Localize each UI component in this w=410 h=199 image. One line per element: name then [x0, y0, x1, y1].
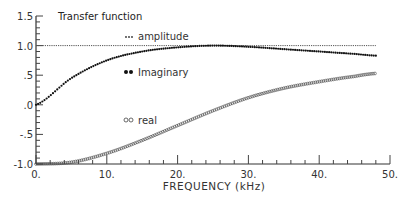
data-point — [271, 47, 273, 49]
data-point — [188, 45, 190, 47]
data-point — [103, 60, 105, 62]
data-point — [77, 73, 79, 75]
data-point — [309, 50, 311, 52]
series-real — [35, 72, 377, 165]
data-point — [56, 88, 58, 90]
data-point — [341, 52, 343, 54]
y-tick-label: 1.0 — [17, 41, 33, 52]
data-point — [358, 53, 360, 55]
data-point — [305, 50, 307, 52]
data-point — [156, 48, 158, 50]
data-point — [245, 46, 247, 48]
data-point — [52, 92, 54, 94]
data-point — [213, 44, 215, 46]
y-tick-label: -1.0 — [13, 159, 33, 170]
data-point — [347, 52, 349, 54]
x-axis-label: FREQUENCY (kHz) — [163, 180, 266, 192]
data-point — [135, 52, 137, 54]
data-point — [364, 54, 366, 56]
data-point — [90, 66, 92, 68]
data-point — [275, 48, 277, 50]
data-point — [241, 45, 243, 47]
data-point — [286, 48, 288, 50]
data-point — [226, 45, 228, 47]
data-point — [198, 45, 200, 47]
data-point — [243, 45, 245, 47]
data-point — [133, 52, 135, 54]
data-point — [273, 47, 275, 49]
data-point — [152, 49, 154, 51]
data-point — [351, 53, 353, 55]
data-point — [228, 45, 230, 47]
data-point — [164, 47, 166, 49]
data-point — [222, 45, 224, 47]
data-point — [48, 96, 50, 98]
data-point — [137, 51, 139, 53]
data-point — [254, 46, 256, 48]
data-point — [43, 99, 45, 101]
data-point — [41, 100, 43, 102]
data-point — [145, 50, 147, 52]
x-tick-label: 10. — [99, 169, 115, 180]
data-point — [124, 54, 126, 56]
data-point — [109, 58, 111, 60]
x-tick-label: 30. — [240, 169, 256, 180]
data-point — [360, 53, 362, 55]
x-tick-label: 20. — [170, 169, 186, 180]
y-tick-label: 1.5 — [17, 11, 33, 22]
data-point — [181, 46, 183, 48]
data-point — [130, 52, 132, 54]
chart-title: Transfer function — [57, 11, 142, 22]
legend-label-real: real — [138, 115, 157, 126]
data-point — [39, 102, 41, 104]
y-tick-label: .0 — [23, 100, 33, 111]
data-point — [322, 51, 324, 53]
data-point — [230, 45, 232, 47]
x-tick-label: 0. — [31, 169, 41, 180]
data-point — [94, 64, 96, 66]
axes: 1.51.0.5.0-.5-1.00.10.20.30.40.50. — [13, 11, 397, 180]
data-point — [147, 49, 149, 51]
data-point — [54, 90, 56, 92]
data-point — [207, 45, 209, 47]
data-point — [60, 85, 62, 87]
data-point — [80, 72, 82, 74]
data-point — [71, 77, 73, 79]
data-point — [167, 47, 169, 49]
data-point — [69, 78, 71, 80]
data-point — [362, 54, 364, 56]
data-point — [232, 45, 234, 47]
data-point — [262, 47, 264, 49]
data-point — [328, 51, 330, 53]
data-point — [374, 72, 377, 75]
data-point — [116, 56, 118, 58]
data-point — [143, 50, 145, 52]
data-point — [298, 49, 300, 51]
data-point — [179, 46, 181, 48]
data-point — [184, 46, 186, 48]
data-point — [58, 86, 60, 88]
data-point — [177, 46, 179, 48]
data-point — [128, 53, 130, 55]
data-point — [220, 45, 222, 47]
data-point — [294, 49, 296, 51]
data-point — [266, 47, 268, 49]
data-point — [368, 54, 370, 56]
data-point — [171, 47, 173, 49]
data-point — [258, 46, 260, 48]
data-point — [120, 55, 122, 57]
data-point — [67, 79, 69, 81]
data-point — [141, 50, 143, 52]
data-point — [150, 49, 152, 51]
data-point — [111, 57, 113, 59]
data-point — [288, 48, 290, 50]
data-point — [317, 50, 319, 52]
data-point — [162, 48, 164, 50]
data-point — [139, 51, 141, 53]
data-point — [201, 45, 203, 47]
data-point — [281, 48, 283, 50]
data-point — [373, 54, 375, 56]
data-point — [332, 51, 334, 53]
y-tick-label: -.5 — [20, 129, 33, 140]
data-point — [215, 44, 217, 46]
